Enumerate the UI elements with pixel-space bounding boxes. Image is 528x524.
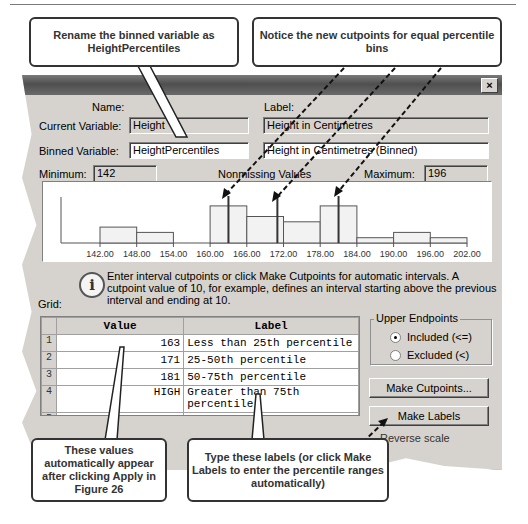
rename-callout: Rename the binned variable as HeightPerc… (29, 17, 239, 67)
binned-variable-label-input[interactable]: Height in Centimetres (Binned) (263, 142, 489, 159)
table-row[interactable]: 2 171 25-50th percentile (42, 352, 359, 369)
svg-text:178.00: 178.00 (306, 249, 334, 259)
excluded-radio-label: Excluded (<) (407, 349, 469, 361)
label-column-header-grid[interactable]: Label (184, 318, 359, 335)
binned-variable-label: Binned Variable: (39, 145, 119, 157)
table-row[interactable]: 1 163 Less than 25th percentile (42, 335, 359, 352)
row-number: 1 (42, 335, 57, 352)
label-cell[interactable]: Greater than 75th percentile (184, 386, 359, 413)
maximum-value-field: 196 (424, 165, 488, 182)
table-row[interactable]: 5 (42, 413, 359, 417)
upper-endpoints-title: Upper Endpoints (374, 312, 460, 324)
svg-text:190.00: 190.00 (380, 249, 408, 259)
label-cell[interactable] (184, 413, 359, 417)
binned-variable-name-input[interactable]: HeightPercentiles (129, 142, 249, 159)
minimum-label: Minimum: (39, 168, 87, 180)
make-labels-button[interactable]: Make Labels (369, 406, 489, 426)
histogram-chart: 142.00148.00154.00160.00166.00172.00178.… (42, 181, 492, 262)
label-cell[interactable]: 50-75th percentile (184, 369, 359, 386)
excluded-radio[interactable]: Excluded (<) (390, 349, 469, 361)
close-button[interactable]: × (481, 78, 498, 93)
values-callout: These values automatically appear after … (31, 438, 167, 502)
table-row[interactable]: 4 HIGH Greater than 75th percentile (42, 386, 359, 413)
svg-text:202.00: 202.00 (453, 249, 481, 259)
current-variable-name-field: Height (129, 117, 249, 134)
cutpoints-callout: Notice the new cutpoints for equal perce… (252, 17, 502, 67)
cutpoint-grid[interactable]: Value Label 1 163 Less than 25th percent… (40, 316, 360, 416)
value-cell[interactable]: 181 (56, 369, 183, 386)
current-variable-label-field: Height in Centimetres (263, 117, 489, 134)
table-row[interactable]: 3 181 50-75th percentile (42, 369, 359, 386)
row-number: 2 (42, 352, 57, 369)
included-radio[interactable]: Included (<=) (390, 331, 472, 343)
row-number-header (42, 318, 57, 335)
grid-label: Grid: (38, 298, 62, 310)
minimum-value-field: 142 (93, 165, 157, 182)
svg-text:154.00: 154.00 (160, 249, 188, 259)
grid-header-row: Value Label (42, 318, 359, 335)
value-cell[interactable] (56, 413, 183, 417)
row-number: 3 (42, 369, 57, 386)
svg-text:184.00: 184.00 (343, 249, 371, 259)
svg-text:148.00: 148.00 (123, 249, 151, 259)
value-cell[interactable]: 163 (56, 335, 183, 352)
labels-callout: Type these labels (or click Make Labels … (187, 438, 389, 502)
nonmissing-values-label: Nonmissing Values (218, 168, 311, 180)
info-icon: i (79, 272, 105, 298)
row-number: 4 (42, 386, 57, 413)
svg-text:160.00: 160.00 (196, 249, 224, 259)
make-cutpoints-button[interactable]: Make Cutpoints... (369, 378, 489, 398)
title-bar: × (22, 75, 502, 95)
page-rule (10, 4, 516, 5)
label-cell[interactable]: Less than 25th percentile (184, 335, 359, 352)
reverse-scale-checkbox-label[interactable]: Reverse scale (380, 432, 450, 444)
svg-text:142.00: 142.00 (86, 249, 114, 259)
svg-text:196.00: 196.00 (417, 249, 445, 259)
radio-selected-icon[interactable] (390, 332, 401, 343)
info-text: Enter interval cutpoints or click Make C… (107, 270, 499, 306)
value-column-header[interactable]: Value (56, 318, 183, 335)
maximum-label: Maximum: (364, 168, 415, 180)
svg-text:166.00: 166.00 (233, 249, 261, 259)
row-number: 5 (42, 413, 57, 417)
name-column-header: Name: (92, 101, 124, 113)
value-cell[interactable]: HIGH (56, 386, 183, 413)
label-column-header: Label: (264, 101, 294, 113)
radio-unselected-icon[interactable] (390, 350, 401, 361)
value-cell[interactable]: 171 (56, 352, 183, 369)
histogram-plot: 142.00148.00154.00160.00166.00172.00178.… (43, 182, 491, 261)
svg-text:172.00: 172.00 (270, 249, 298, 259)
included-radio-label: Included (<=) (407, 331, 472, 343)
label-cell[interactable]: 25-50th percentile (184, 352, 359, 369)
current-variable-label: Current Variable: (39, 120, 121, 132)
